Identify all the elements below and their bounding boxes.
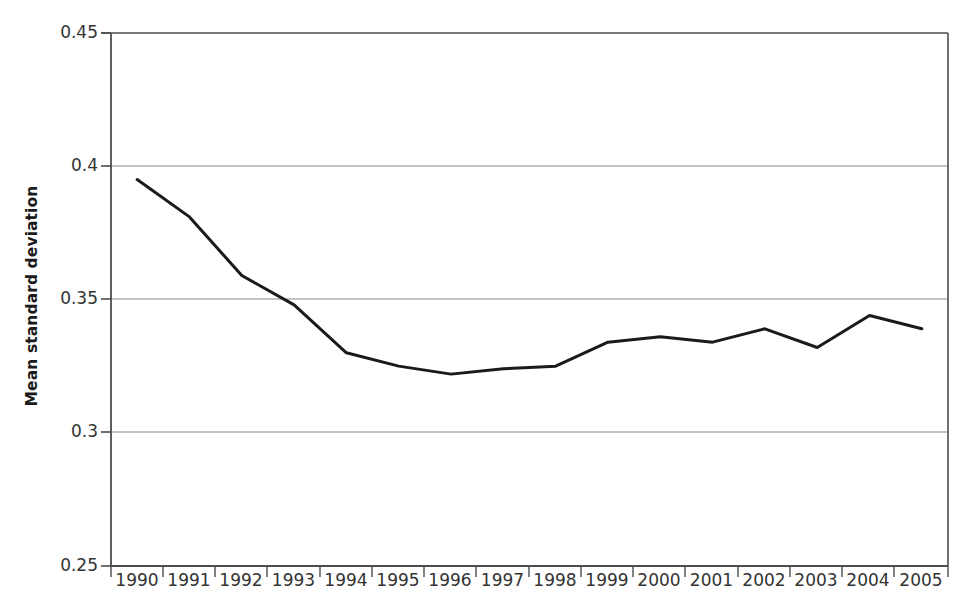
x-tick-label-1996: 1996	[424, 572, 476, 589]
x-tick-label-1990: 1990	[111, 572, 163, 589]
line-chart-figure: Mean standard deviation 0.45 0.4 0.35 0.…	[0, 0, 966, 614]
x-tick-label-2001: 2001	[685, 572, 738, 589]
x-tick-label-2002: 2002	[738, 572, 790, 589]
data-series-line	[137, 180, 922, 375]
x-tick-label-1995: 1995	[372, 572, 424, 589]
x-tick-label-2000: 2000	[633, 572, 685, 589]
y-axis-ticks	[101, 33, 111, 566]
x-tick-label-2004: 2004	[842, 572, 894, 589]
x-tick-label-1991: 1991	[163, 572, 215, 589]
x-tick-label-1998: 1998	[529, 572, 581, 589]
gridlines	[111, 166, 948, 432]
plot-area	[0, 0, 966, 614]
x-tick-label-1992: 1992	[215, 572, 267, 589]
x-tick-label-1994: 1994	[320, 572, 372, 589]
x-tick-label-1993: 1993	[267, 572, 320, 589]
x-tick-label-1999: 1999	[581, 572, 633, 589]
x-tick-label-2005: 2005	[894, 572, 948, 589]
x-tick-label-1997: 1997	[476, 572, 529, 589]
x-tick-label-2003: 2003	[790, 572, 842, 589]
